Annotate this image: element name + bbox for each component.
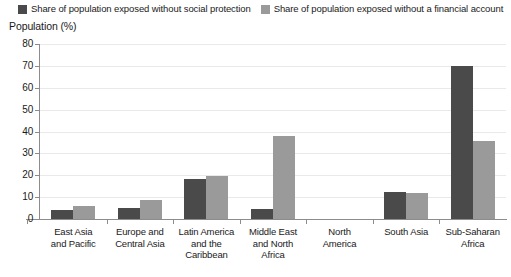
bar-group	[40, 44, 107, 219]
y-axis-tick-label: 80	[3, 39, 33, 49]
y-axis-tick-mark	[35, 219, 39, 220]
x-axis-category-label-line: Europe and	[107, 226, 174, 238]
bar	[384, 192, 406, 219]
bar	[406, 193, 428, 219]
x-axis-category-label: East Asiaand Pacific	[40, 226, 107, 249]
x-axis-category-label-line: Africa	[439, 238, 506, 250]
bar	[473, 141, 495, 219]
x-axis-category-label: Sub-SaharanAfrica	[439, 226, 506, 249]
legend-swatch-icon	[261, 5, 270, 14]
legend-item-social-protection: Share of population exposed without soci…	[18, 4, 251, 14]
y-axis-tick-label: 0	[3, 214, 33, 224]
x-axis-category-labels: East Asiaand PacificEurope andCentral As…	[26, 226, 507, 276]
bar	[118, 208, 140, 219]
x-axis-tick-mark	[107, 219, 108, 224]
y-axis-tick-mark	[35, 44, 39, 45]
y-axis-tick-mark	[35, 88, 39, 89]
bar	[140, 200, 162, 219]
bar	[451, 66, 473, 219]
legend-label: Share of population exposed without a fi…	[274, 4, 504, 14]
y-axis-tick-label: 30	[3, 148, 33, 158]
bar	[51, 210, 73, 219]
x-axis-category-label-line: Central Asia	[107, 238, 174, 250]
y-axis-tick-mark	[35, 132, 39, 133]
chart-legend: Share of population exposed without soci…	[0, 0, 511, 18]
x-axis-line	[26, 219, 507, 220]
x-axis-tick-mark	[173, 219, 174, 224]
x-axis-category-label-line: and the	[173, 238, 240, 250]
x-axis-category-label-line: and North	[240, 238, 307, 250]
bar-group	[240, 44, 307, 219]
x-axis-category-label-line: North	[306, 226, 373, 238]
bar-group	[373, 44, 440, 219]
x-axis-category-label-line: America	[306, 238, 373, 250]
x-axis-tick-mark	[439, 219, 440, 224]
y-axis-tick-mark	[35, 153, 39, 154]
x-axis-category-label: Latin Americaand theCaribbean	[173, 226, 240, 261]
bar	[184, 179, 206, 219]
x-axis-category-label-line: Caribbean	[173, 249, 240, 261]
x-axis-category-label-line: and Pacific	[40, 238, 107, 250]
x-axis-category-label-line: South Asia	[373, 226, 440, 238]
bar	[206, 176, 228, 219]
y-axis-tick-mark	[35, 175, 39, 176]
y-axis-tick-label: 60	[3, 83, 33, 93]
legend-item-financial-account: Share of population exposed without a fi…	[261, 4, 504, 14]
y-axis-tick-mark	[35, 197, 39, 198]
x-axis-category-label: Middle Eastand NorthAfrica	[240, 226, 307, 261]
legend-label: Share of population exposed without soci…	[31, 4, 251, 14]
y-axis-ticks: 01020304050607080	[0, 44, 33, 220]
y-axis-tick-label: 70	[3, 61, 33, 71]
bar	[251, 209, 273, 219]
x-axis-category-label-line: Africa	[240, 249, 307, 261]
x-axis-category-label: South Asia	[373, 226, 440, 238]
x-axis-tick-mark	[240, 219, 241, 224]
y-axis-tick-mark	[35, 66, 39, 67]
y-axis-tick-label: 50	[3, 105, 33, 115]
x-axis-category-label: NorthAmerica	[306, 226, 373, 249]
plot-area	[40, 44, 506, 219]
x-axis-origin-tick	[27, 219, 28, 224]
x-axis-category-label-line: East Asia	[40, 226, 107, 238]
x-axis-category-label-line: Middle East	[240, 226, 307, 238]
bar-group	[439, 44, 506, 219]
x-axis-tick-mark	[306, 219, 307, 224]
y-axis-tick-mark	[35, 110, 39, 111]
y-axis-tick-label: 40	[3, 127, 33, 137]
bar-group	[173, 44, 240, 219]
bar	[73, 206, 95, 219]
bar-group	[107, 44, 174, 219]
bar	[273, 136, 295, 219]
x-axis-category-label-line: Sub-Saharan	[439, 226, 506, 238]
y-axis-tick-label: 20	[3, 170, 33, 180]
bar-group	[306, 44, 373, 219]
y-axis-title: Population (%)	[9, 20, 76, 32]
x-axis-tick-mark	[373, 219, 374, 224]
legend-swatch-icon	[18, 5, 27, 14]
x-axis-category-label-line: Latin America	[173, 226, 240, 238]
y-axis-tick-label: 10	[3, 192, 33, 202]
x-axis-category-label: Europe andCentral Asia	[107, 226, 174, 249]
